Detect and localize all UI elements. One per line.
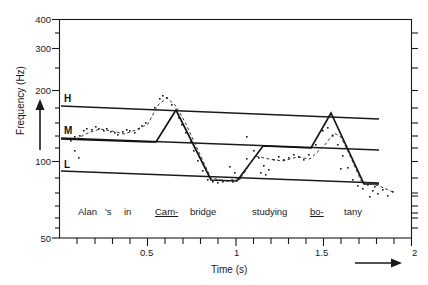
y-axis-ticks xyxy=(52,20,60,239)
pitch-contour-figure: Frequency (Hz) 400 300 200 100 50 0.5 1 … xyxy=(0,0,428,285)
up-arrow-icon xyxy=(36,99,45,150)
y-axis-ticks-right xyxy=(412,33,419,228)
plot-canvas xyxy=(0,0,428,285)
axes-frame xyxy=(60,20,412,239)
right-arrow-icon xyxy=(355,259,402,268)
declination-line-l xyxy=(61,171,379,183)
declination-lines xyxy=(61,106,379,183)
